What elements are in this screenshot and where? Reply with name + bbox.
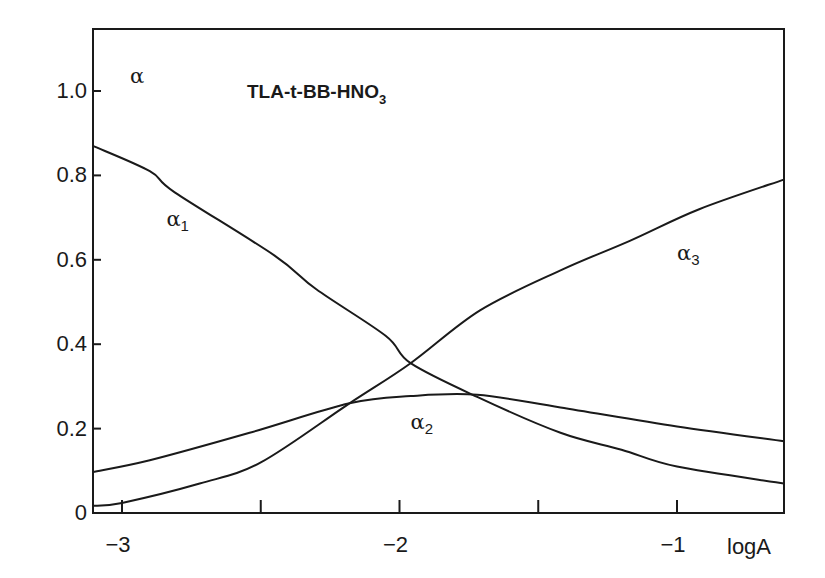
y-tick-label: 0 (75, 500, 87, 525)
chart-title-main: TLA-t-BB-HNO (247, 81, 379, 102)
line-chart: −3−2−100.20.40.60.81.0 α1α2α3 TLA-t-BB-H… (0, 0, 825, 578)
axis-ticks (93, 91, 677, 513)
x-tick-label: −2 (383, 532, 408, 557)
y-tick-label: 0.8 (56, 162, 87, 187)
y-tick-label: 0.2 (56, 416, 87, 441)
series-line-α3 (93, 180, 784, 506)
series-line-α1 (93, 146, 784, 484)
x-tick-label: −3 (105, 532, 130, 557)
data-curves (93, 146, 784, 506)
curve-labels: α1α2α3 (166, 207, 699, 437)
curve-label-α3: α3 (677, 241, 700, 268)
chart-title: TLA-t-BB-HNO3 (247, 81, 386, 107)
plot-frame (93, 29, 784, 513)
y-tick-label: 0.4 (56, 331, 87, 356)
chart-title-subscript: 3 (379, 92, 386, 107)
y-tick-label: 1.0 (56, 78, 87, 103)
y-axis-symbol: α (130, 64, 144, 88)
curve-label-α2: α2 (411, 410, 434, 437)
curve-label-α1: α1 (166, 207, 189, 234)
x-tick-label: −1 (660, 532, 685, 557)
series-line-α2 (93, 394, 784, 472)
axis-tick-labels: −3−2−100.20.40.60.81.0 (56, 78, 685, 557)
plot-border (93, 29, 784, 513)
chart: −3−2−100.20.40.60.81.0 α1α2α3 TLA-t-BB-H… (0, 0, 825, 578)
y-tick-label: 0.6 (56, 247, 87, 272)
x-axis-label: logA (727, 534, 771, 559)
